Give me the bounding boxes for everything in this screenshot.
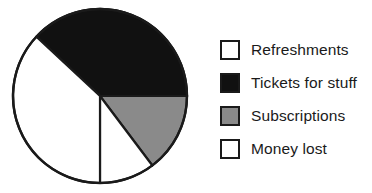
legend-swatch-money-lost: [220, 139, 240, 159]
pie-chart-svg: [0, 0, 200, 193]
legend-item-tickets-for-stuff[interactable]: Tickets for stuff: [220, 66, 372, 99]
legend-label-tickets-for-stuff: Tickets for stuff: [251, 75, 357, 91]
legend-item-money-lost[interactable]: Money lost: [220, 132, 372, 165]
chart-legend: Refreshments Tickets for stuff Subscript…: [220, 33, 372, 165]
pie-chart-area: [0, 0, 200, 193]
legend-item-subscriptions[interactable]: Subscriptions: [220, 99, 372, 132]
legend-swatch-refreshments: [220, 40, 240, 60]
legend-item-refreshments[interactable]: Refreshments: [220, 33, 372, 66]
legend-label-money-lost: Money lost: [251, 141, 327, 157]
legend-label-subscriptions: Subscriptions: [251, 108, 345, 124]
pie-chart-figure: Refreshments Tickets for stuff Subscript…: [0, 0, 372, 193]
legend-label-refreshments: Refreshments: [251, 42, 349, 58]
legend-swatch-tickets-for-stuff: [220, 73, 240, 93]
legend-swatch-subscriptions: [220, 106, 240, 126]
